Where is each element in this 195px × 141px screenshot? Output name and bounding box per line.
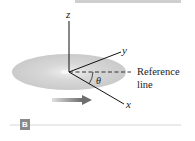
- reference-label-line2: line: [137, 79, 153, 90]
- top-rule: [75, 0, 181, 3]
- reference-label-line1: Reference: [137, 66, 180, 77]
- theta-label: θ: [96, 75, 101, 86]
- y-axis-label: y: [122, 44, 127, 56]
- arrow-icon: [82, 95, 92, 105]
- panel-label-badge: B: [20, 119, 30, 130]
- x-axis-label: x: [126, 98, 131, 110]
- z-axis-label: z: [66, 8, 70, 20]
